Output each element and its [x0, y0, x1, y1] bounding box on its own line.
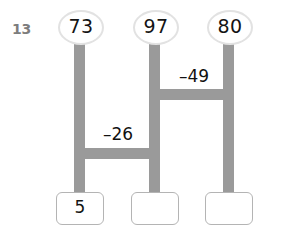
oval-node-3-value: 80 — [217, 17, 242, 36]
answer-box-1[interactable]: 5 — [56, 192, 104, 225]
oval-node-1: 73 — [58, 10, 104, 45]
answer-box-3[interactable] — [205, 192, 253, 225]
operation-label-lower: –26 — [100, 126, 136, 143]
problem-number: 13 — [12, 18, 46, 40]
oval-node-1-value: 73 — [68, 17, 93, 36]
operation-label-upper: –49 — [176, 68, 212, 85]
worksheet-canvas: 13 73 97 80 –49 –26 5 — [0, 0, 281, 231]
oval-node-2: 97 — [133, 10, 179, 45]
horizontal-connector-lower — [74, 148, 160, 159]
vertical-bar-3 — [223, 42, 234, 194]
vertical-bar-1 — [74, 42, 85, 194]
oval-node-2-value: 97 — [143, 17, 168, 36]
oval-node-3: 80 — [207, 10, 253, 45]
vertical-bar-2 — [149, 42, 160, 194]
horizontal-connector-upper — [149, 89, 234, 100]
answer-box-1-value: 5 — [75, 199, 86, 216]
answer-box-2[interactable] — [131, 192, 179, 225]
